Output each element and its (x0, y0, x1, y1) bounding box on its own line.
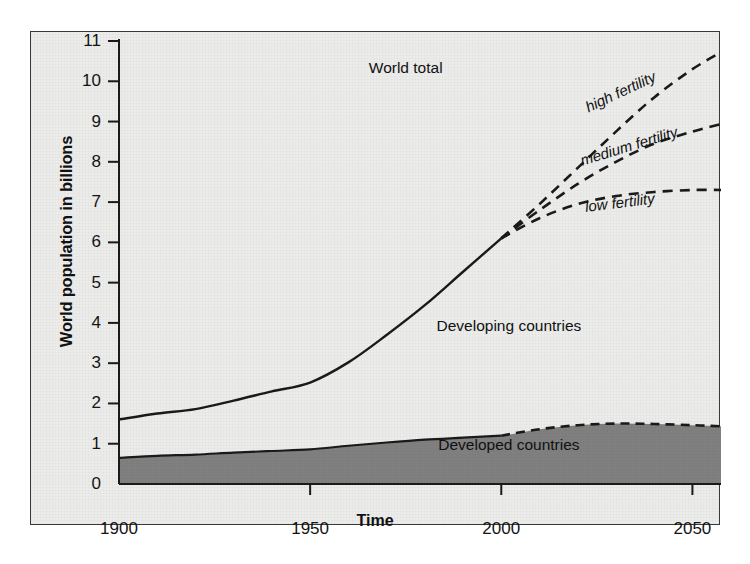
y-axis-tick-marks (108, 41, 119, 444)
population-chart-figure: 01234567891011 1900195020002050 World po… (30, 31, 720, 525)
chart-plot-area (31, 32, 721, 526)
x-axis-title: Time (0, 512, 750, 530)
annotation-developing-countries: Developing countries (437, 317, 582, 335)
x-axis-tick-marks (310, 484, 692, 495)
y-axis-title: World population in billions (57, 47, 76, 437)
annotation-world-total: World total (369, 59, 443, 77)
y-tick-label: 1 (41, 435, 101, 452)
y-tick-label: 0 (41, 475, 101, 492)
annotation-developed-countries: Developed countries (438, 436, 579, 454)
